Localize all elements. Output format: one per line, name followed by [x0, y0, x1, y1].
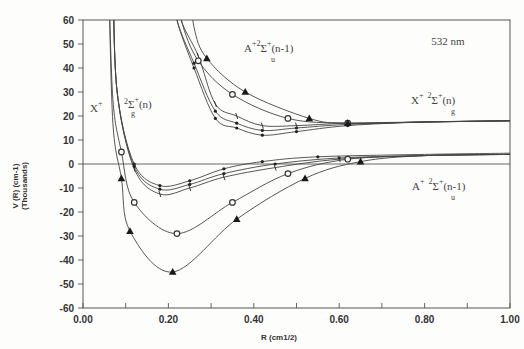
- label-a-state-top: A+2Σ+(n-1) u: [244, 39, 294, 64]
- circle-marker: [230, 200, 236, 206]
- y-tick-label: 30: [63, 87, 75, 98]
- y-tick-label: -40: [60, 255, 75, 266]
- y-tick-label: -30: [60, 231, 75, 242]
- dot-marker: [158, 188, 161, 191]
- y-axis-subtitle: (Thousands): [20, 162, 29, 210]
- curve-triangle: [190, 0, 510, 123]
- circle-marker: [195, 58, 201, 64]
- dot-marker: [261, 160, 264, 163]
- svg-text:A+2Σ+(n-1): A+2Σ+(n-1): [244, 39, 294, 55]
- y-tick-label: -60: [60, 303, 75, 314]
- curve-tick: [177, 0, 510, 126]
- y-axis: 6050403020100-10-20-30-40-50-60: [60, 15, 83, 314]
- circle-marker: [131, 200, 137, 206]
- y-tick-label: -50: [60, 279, 75, 290]
- x-tick-label: 1.00: [500, 314, 520, 325]
- label-x-state-right: X+2Σ+(n) g: [411, 91, 456, 116]
- circle-marker: [174, 231, 180, 237]
- svg-text:g: g: [131, 109, 135, 118]
- dot-marker: [235, 126, 238, 129]
- svg-text:2Σ+(n): 2Σ+(n): [124, 95, 152, 111]
- triangle-marker: [126, 227, 134, 234]
- circle-marker: [119, 149, 125, 155]
- triangle-marker: [233, 215, 241, 222]
- dot-marker: [235, 122, 238, 125]
- circle-marker: [285, 116, 291, 122]
- dot-marker: [192, 66, 195, 69]
- x-axis-title: R (cm1/2): [261, 333, 297, 342]
- circle-marker: [285, 171, 291, 177]
- dot-marker: [261, 129, 264, 132]
- x-tick-label: 0.60: [329, 314, 349, 325]
- wavelength-annotation: 532 nm: [431, 35, 465, 47]
- svg-text:X+: X+: [90, 99, 103, 114]
- triangle-marker: [118, 174, 126, 181]
- dot-marker: [295, 130, 298, 133]
- y-tick-label: 60: [63, 15, 75, 26]
- potential-energy-chart: 6050403020100-10-20-30-40-50-60 0.000.20…: [0, 0, 524, 349]
- dot-marker: [192, 62, 195, 65]
- x-tick-label: 0.00: [73, 314, 93, 325]
- svg-text:u: u: [451, 193, 455, 202]
- label-x-state-left: X+ 2Σ+(n) g: [90, 95, 152, 118]
- y-tick-label: 0: [68, 159, 74, 170]
- y-tick-label: -10: [60, 183, 75, 194]
- y-tick-label: -20: [60, 207, 75, 218]
- y-tick-label: 10: [63, 135, 75, 146]
- dot-marker: [222, 167, 225, 170]
- x-tick-label: 0.40: [244, 314, 264, 325]
- circle-marker: [345, 156, 351, 162]
- circle-marker: [230, 92, 236, 98]
- dot-marker: [316, 155, 319, 158]
- dot-marker: [214, 110, 217, 113]
- triangle-marker: [241, 88, 249, 95]
- y-axis-title: V (R) (cm-1): [11, 163, 20, 208]
- y-tick-label: 40: [63, 63, 75, 74]
- y-tick-label: 20: [63, 111, 75, 122]
- x-axis: 0.000.200.400.600.801.00: [73, 303, 520, 325]
- dot-marker: [158, 184, 161, 187]
- svg-text:g: g: [451, 107, 455, 116]
- svg-text:X+2Σ+(n): X+2Σ+(n): [411, 91, 456, 107]
- x-tick-label: 0.20: [159, 314, 179, 325]
- label-a-state-right: A+2Σ+(n-1) u: [412, 177, 466, 202]
- svg-text:A+2Σ+(n-1): A+2Σ+(n-1): [412, 177, 466, 193]
- dot-marker: [214, 117, 217, 120]
- dot-marker: [188, 179, 191, 182]
- dot-marker: [261, 134, 264, 137]
- curve-circle: [177, 0, 510, 123]
- svg-text:u: u: [271, 55, 275, 64]
- x-tick-label: 0.80: [415, 314, 435, 325]
- triangle-marker: [301, 174, 309, 181]
- tick-marker: [214, 101, 216, 107]
- y-tick-label: 50: [63, 39, 75, 50]
